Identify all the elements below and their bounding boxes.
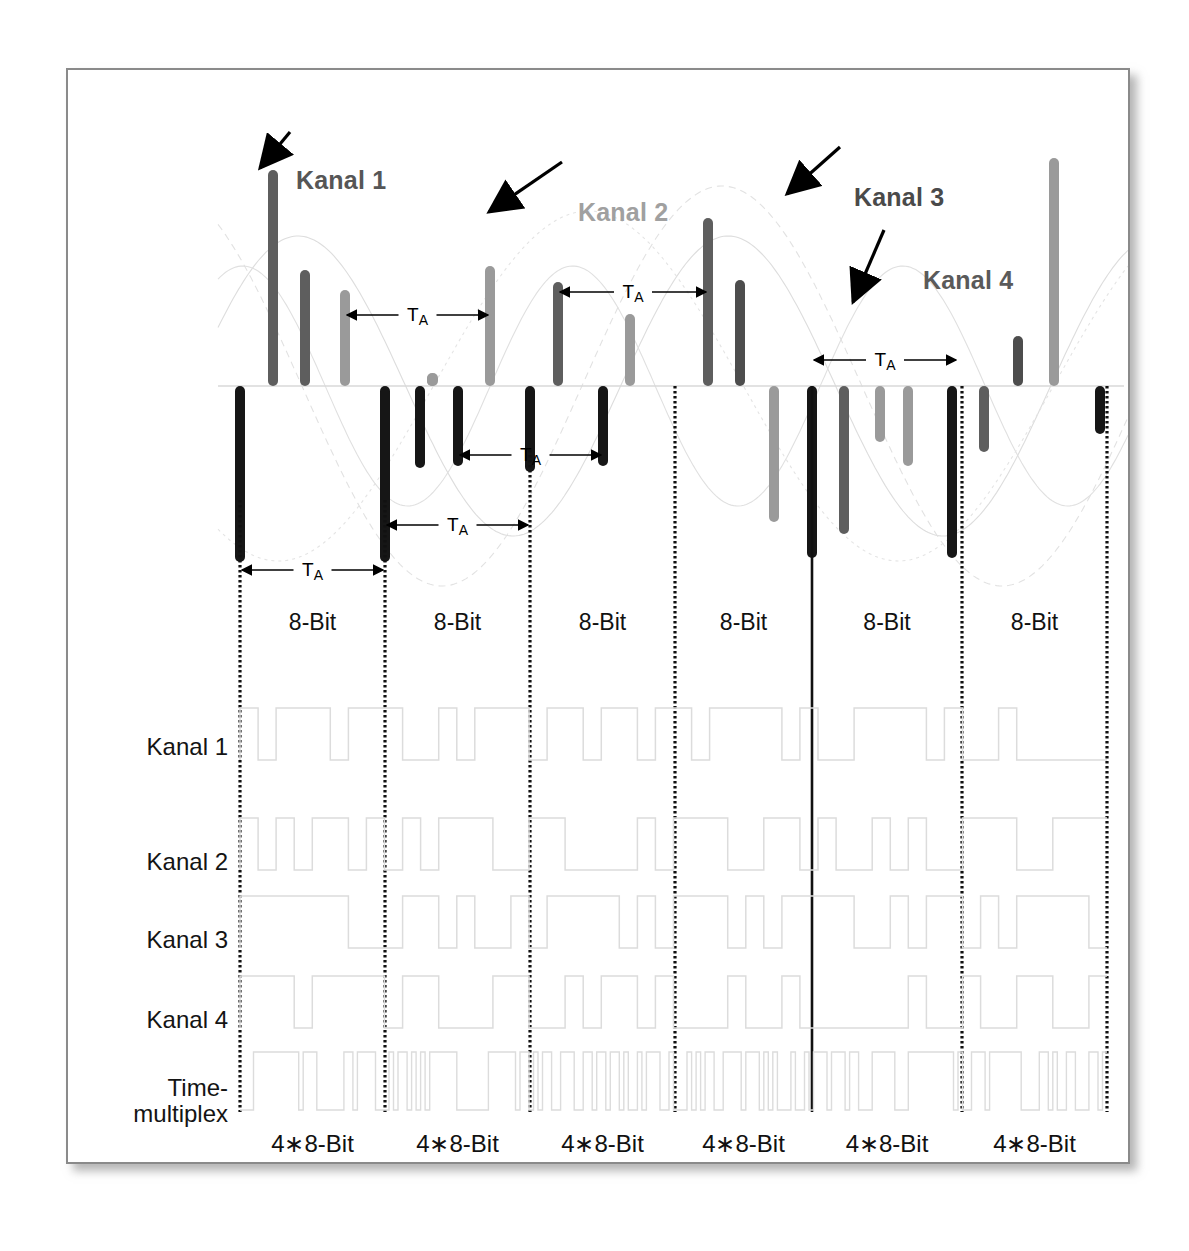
row-label-kanal-2: Kanal 2 (68, 848, 228, 876)
segment-label-8bit: 8-Bit (579, 609, 627, 635)
sample-bar (268, 170, 278, 386)
annotation-label-kanal-1: Kanal 1 (296, 166, 386, 195)
figure-frame: TATATATATATA8-Bit4∗8-Bit8-Bit4∗8-Bit8-Bi… (66, 68, 1130, 1164)
sample-bar (553, 282, 563, 386)
annotation-arrow-kanal-2 (489, 162, 562, 212)
row-label-kanal-4: Kanal 4 (68, 1006, 228, 1034)
sample-bar (947, 386, 957, 558)
segment-label-8bit: 8-Bit (1011, 609, 1059, 635)
row-label-time-multiplex-text: Time- multiplex (133, 1074, 228, 1127)
sample-bar (1013, 336, 1023, 386)
sample-bar (453, 386, 463, 466)
row-label-time-multiplex: Time- multiplex (68, 1075, 228, 1128)
bottom-label-4x8bit: 4∗8-Bit (416, 1130, 499, 1157)
sample-bar (1049, 158, 1059, 386)
ta-label: TA (447, 514, 469, 538)
ta-label: TA (302, 559, 324, 583)
row-label-kanal-3: Kanal 3 (68, 926, 228, 954)
annotation-label-kanal-3: Kanal 3 (854, 183, 944, 212)
bottom-label-4x8bit: 4∗8-Bit (846, 1130, 929, 1157)
bottom-label-4x8bit: 4∗8-Bit (271, 1130, 354, 1157)
sample-bar (598, 386, 608, 466)
sample-bar (703, 218, 713, 386)
time-multiplex-waveform (240, 1052, 1107, 1110)
sample-bar (875, 386, 885, 442)
sample-bar (485, 266, 495, 386)
segment-label-8bit: 8-Bit (720, 609, 768, 635)
digital-waveform-row (240, 976, 1107, 1028)
ta-label: TA (407, 304, 429, 328)
ta-arrow-5: TA (560, 281, 706, 305)
annotation-label-kanal-2: Kanal 2 (578, 198, 668, 227)
digital-waveform-row (240, 896, 1107, 948)
segment-label-8bit: 8-Bit (289, 609, 337, 635)
annotation-arrow-kanal-3 (787, 147, 840, 194)
sample-bar (839, 386, 849, 534)
ta-label: TA (875, 349, 897, 373)
bottom-label-4x8bit: 4∗8-Bit (561, 1130, 644, 1157)
sample-bar (1095, 386, 1105, 434)
sample-bar (340, 290, 350, 386)
ta-arrow-3: TA (460, 444, 601, 468)
segment-label-8bit: 8-Bit (863, 609, 911, 635)
annotation-label-kanal-4: Kanal 4 (923, 266, 1013, 295)
sample-bar (415, 386, 425, 468)
sample-bar (300, 270, 310, 386)
annotation-arrow-kanal-1 (260, 132, 290, 168)
sample-bar (625, 314, 635, 386)
sample-bar (903, 386, 913, 466)
ta-arrow-1: TA (242, 559, 383, 583)
ta-label: TA (520, 444, 542, 468)
bottom-label-4x8bit: 4∗8-Bit (702, 1130, 785, 1157)
diagram-canvas: TATATATATATA8-Bit4∗8-Bit8-Bit4∗8-Bit8-Bi… (68, 70, 1128, 1162)
digital-waveform-row (240, 818, 1107, 870)
ta-label: TA (623, 281, 645, 305)
bottom-label-4x8bit: 4∗8-Bit (993, 1130, 1076, 1157)
sample-bar (979, 386, 989, 452)
sample-bar (769, 386, 779, 522)
sample-bar (735, 280, 745, 386)
row-label-kanal-1: Kanal 1 (68, 733, 228, 761)
sample-bar (427, 373, 438, 386)
segment-label-8bit: 8-Bit (434, 609, 482, 635)
